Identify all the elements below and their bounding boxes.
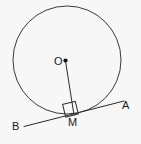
label-center-o: O <box>54 56 63 67</box>
label-tangent-end-a: A <box>122 100 129 111</box>
label-tangent-point-m: M <box>68 117 77 128</box>
label-tangent-end-b: B <box>12 121 19 132</box>
geometry-figure: O M A B <box>0 0 141 144</box>
center-point-dot <box>63 58 67 62</box>
radius-segment-om <box>66 61 75 115</box>
